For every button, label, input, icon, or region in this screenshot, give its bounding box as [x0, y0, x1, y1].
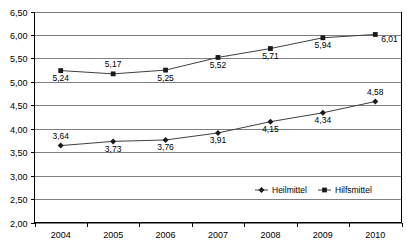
- data-label-hilfsmittel-2006: 5,25: [157, 73, 174, 83]
- data-label-heilmittel-2004: 3,64: [52, 131, 69, 141]
- data-label-hilfsmittel-2009: 5,94: [315, 40, 332, 50]
- x-tick-label-2008: 2008: [260, 230, 280, 240]
- data-label-heilmittel-2008: 4,15: [262, 124, 279, 134]
- data-label-heilmittel-2007: 3,91: [210, 135, 227, 145]
- x-tick-label-2005: 2005: [103, 230, 123, 240]
- legend-marker-hilfsmittel: [322, 188, 327, 193]
- x-tick-label-2009: 2009: [313, 230, 333, 240]
- y-tick-label: 5,50: [10, 54, 28, 64]
- data-label-hilfsmittel-2010: 6,01: [381, 34, 398, 44]
- y-tick-label: 6,00: [10, 31, 28, 41]
- chart-canvas: 2,002,503,003,504,004,505,005,506,006,50…: [0, 0, 407, 243]
- legend-label-hilfsmittel: Hilfsmittel: [335, 185, 372, 195]
- line-chart: 2,002,503,003,504,004,505,005,506,006,50…: [0, 0, 407, 243]
- data-label-heilmittel-2009: 4,34: [315, 115, 332, 125]
- data-label-hilfsmittel-2008: 5,71: [262, 51, 279, 61]
- y-tick-label: 6,50: [10, 8, 28, 18]
- y-tick-label: 4,50: [10, 101, 28, 111]
- x-tick-label-2006: 2006: [156, 230, 176, 240]
- x-tick-label-2004: 2004: [51, 230, 71, 240]
- legend-label-heilmittel: Heilmittel: [272, 185, 307, 195]
- y-tick-label: 5,00: [10, 78, 28, 88]
- x-tick-label-2010: 2010: [365, 230, 385, 240]
- data-label-heilmittel-2005: 3,73: [105, 144, 122, 154]
- y-tick-label: 3,00: [10, 172, 28, 182]
- data-label-heilmittel-2006: 3,76: [157, 142, 174, 152]
- data-point-hilfsmittel-2005: [111, 71, 116, 76]
- data-label-hilfsmittel-2004: 5,24: [52, 73, 69, 83]
- data-label-heilmittel-2010: 4,58: [367, 87, 384, 97]
- data-label-hilfsmittel-2005: 5,17: [105, 59, 122, 69]
- y-tick-label: 3,50: [10, 148, 28, 158]
- y-tick-label: 2,50: [10, 195, 28, 205]
- y-tick-label: 2,00: [10, 219, 28, 229]
- x-tick-label-2007: 2007: [208, 230, 228, 240]
- data-point-hilfsmittel-2010: [373, 32, 378, 37]
- data-label-hilfsmittel-2007: 5,52: [210, 60, 227, 70]
- y-tick-label: 4,00: [10, 125, 28, 135]
